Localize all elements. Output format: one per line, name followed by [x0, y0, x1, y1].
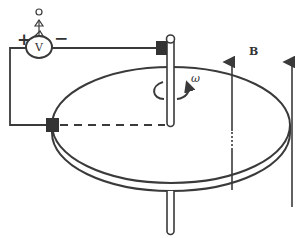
axle-shaft: [167, 41, 174, 127]
voltmeter: V + −: [17, 9, 68, 58]
wire-left: [10, 48, 50, 125]
voltmeter-label: V: [34, 41, 44, 54]
voltmeter-knob-icon: [36, 9, 42, 15]
diagram-svg: ω B V + −: [0, 0, 300, 238]
minus-terminal-label: −: [54, 28, 68, 48]
omega-label: ω: [191, 72, 200, 85]
rim-brush-contact: [46, 118, 59, 132]
axle-top-cap: [167, 35, 175, 43]
field-label-b: B: [249, 45, 258, 58]
axle: [167, 35, 175, 127]
plus-terminal-label: +: [17, 29, 31, 49]
faraday-disk-diagram: ω B V + −: [0, 0, 300, 238]
axle-bottom: [167, 191, 174, 235]
axle-brush-contact: [156, 41, 167, 55]
